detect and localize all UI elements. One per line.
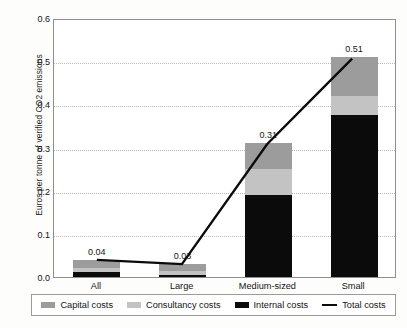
chart-legend: Capital costsConsultancy costsInternal c… (31, 294, 396, 316)
legend-label: Capital costs (60, 300, 113, 310)
bar-large[interactable] (159, 264, 206, 277)
legend-item-internal-costs[interactable]: Internal costs (235, 300, 309, 310)
legend-item-capital-costs[interactable]: Capital costs (41, 300, 113, 310)
y-tick-label: 0.0 (24, 273, 50, 283)
legend-label: Consultancy costs (146, 300, 221, 310)
bar-segment-capital (73, 260, 120, 269)
legend-swatch-icon (41, 302, 55, 308)
chart-figure: Euros per tonne of verified CO2 emission… (0, 0, 407, 328)
bar-small[interactable] (331, 57, 378, 277)
x-tick-label: Medium-sized (239, 281, 296, 291)
bar-segment-capital (245, 143, 292, 169)
legend-label: Total costs (342, 300, 385, 310)
y-axis-title: Euros per tonne of verified CO2 emission… (34, 10, 44, 260)
data-label: 0.31 (260, 130, 278, 140)
y-tick-label: 0.5 (24, 57, 50, 67)
x-tick-label: All (91, 281, 101, 291)
data-label: 0.51 (345, 44, 363, 54)
data-label: 0.03 (174, 251, 192, 261)
data-label: 0.04 (88, 247, 106, 257)
bar-segment-consultancy (331, 96, 378, 115)
legend-swatch-icon (127, 302, 141, 308)
plot-area: 0.040.030.310.51 (53, 19, 396, 278)
x-tick-label: Large (170, 281, 194, 291)
legend-item-total-costs[interactable]: Total costs (322, 300, 385, 310)
y-tick-label: 0.6 (24, 14, 50, 24)
legend-label: Internal costs (254, 300, 309, 310)
legend-swatch-icon (322, 304, 337, 306)
y-tick-label: 0.4 (24, 100, 50, 110)
y-tick-label: 0.2 (24, 186, 50, 196)
bar-segment-internal (159, 275, 206, 277)
legend-swatch-icon (235, 302, 249, 308)
total-costs-polyline (97, 59, 352, 265)
bar-all[interactable] (73, 260, 120, 277)
legend-item-consultancy-costs[interactable]: Consultancy costs (127, 300, 221, 310)
y-tick-label: 0.1 (24, 229, 50, 239)
x-tick-label: Small (342, 281, 365, 291)
bar-segment-internal (73, 272, 120, 277)
bar-segment-internal (245, 195, 292, 277)
bar-segment-capital (331, 57, 378, 96)
bar-segment-consultancy (245, 169, 292, 195)
bar-medium-sized[interactable] (245, 143, 292, 277)
y-tick-label: 0.3 (24, 143, 50, 153)
bar-segment-internal (331, 115, 378, 277)
